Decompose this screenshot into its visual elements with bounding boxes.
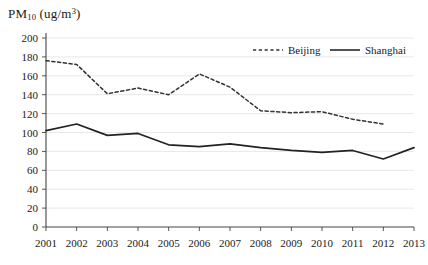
y-tick-label: 140 (22, 89, 39, 101)
x-tick-label: 2003 (96, 237, 119, 249)
y-tick-label: 80 (27, 145, 39, 157)
y-tick-label: 60 (27, 164, 39, 176)
x-axis-ticks (46, 227, 414, 231)
y-axis-tick-labels: 020406080100120140160180200 (22, 32, 39, 233)
x-tick-label: 2008 (250, 237, 273, 249)
gridlines (46, 38, 414, 208)
y-tick-label: 180 (22, 51, 39, 63)
x-tick-label: 2006 (188, 237, 211, 249)
x-tick-label: 2004 (127, 237, 150, 249)
x-tick-label: 2002 (66, 237, 88, 249)
y-axis-ticks (42, 38, 46, 227)
x-tick-label: 2010 (311, 237, 334, 249)
y-tick-label: 20 (27, 202, 39, 214)
chart-legend: BeijingShanghai (253, 44, 406, 56)
chart-svg: 020406080100120140160180200 200120022003… (0, 0, 428, 265)
y-tick-label: 40 (27, 183, 39, 195)
chart-figure: PM10 (ug/m3) 020406080100120140160180200… (0, 0, 428, 265)
x-tick-label: 2007 (219, 237, 242, 249)
y-tick-label: 200 (22, 32, 39, 44)
x-tick-label: 2001 (35, 237, 57, 249)
legend-label-shanghai: Shanghai (365, 44, 406, 56)
series-line-shanghai (46, 124, 414, 159)
y-tick-label: 120 (22, 108, 39, 120)
axis-lines (46, 33, 414, 227)
x-tick-label: 2009 (280, 237, 303, 249)
x-tick-label: 2012 (372, 237, 394, 249)
x-axis-tick-labels: 2001200220032004200520062007200820092010… (35, 237, 426, 249)
y-tick-label: 160 (22, 70, 39, 82)
x-tick-label: 2005 (158, 237, 181, 249)
legend-label-beijing: Beijing (288, 44, 321, 56)
series-line-beijing (46, 61, 383, 124)
y-tick-label: 100 (22, 127, 39, 139)
x-tick-label: 2011 (342, 237, 364, 249)
y-tick-label: 0 (33, 221, 39, 233)
x-tick-label: 2013 (403, 237, 426, 249)
